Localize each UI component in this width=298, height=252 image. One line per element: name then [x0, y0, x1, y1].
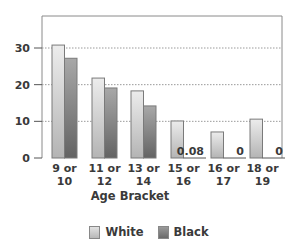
y-tick-label: 10	[15, 115, 31, 128]
x-category-label: 10	[57, 175, 73, 188]
bar-group	[92, 78, 117, 158]
value-label: 0.08	[177, 145, 204, 158]
x-category-label: 13 or	[127, 162, 160, 175]
bar-group	[52, 45, 77, 158]
black-swatch-icon	[158, 226, 169, 239]
bar-white	[92, 78, 105, 158]
x-category-label: 18 or	[246, 162, 279, 175]
x-category-label: 14	[136, 175, 152, 188]
x-category-label: 15 or	[167, 162, 200, 175]
white-swatch-icon	[89, 226, 100, 239]
legend-label-white: White	[105, 225, 143, 239]
bar-white	[52, 45, 65, 158]
x-axis-title: Age Bracket	[91, 189, 170, 203]
bar-black	[65, 58, 78, 158]
bar-group: 0.08	[171, 121, 206, 158]
legend-label-black: Black	[174, 225, 209, 239]
x-category-label: 11 or	[88, 162, 121, 175]
x-category-label: 16	[176, 175, 192, 188]
bar-group: 0	[250, 119, 285, 158]
plot-frame	[42, 16, 282, 158]
y-tick-label: 0	[22, 152, 30, 165]
value-label: 0	[275, 145, 283, 158]
bar-white	[131, 91, 144, 158]
y-tick-label: 20	[15, 79, 31, 92]
bar-white	[211, 132, 224, 158]
gridlines	[42, 48, 282, 121]
bar-group	[131, 91, 156, 158]
y-axis-ticks: 0102030	[15, 42, 42, 165]
x-category-label: 16 or	[207, 162, 240, 175]
bar-black	[144, 106, 157, 158]
x-axis-categories: 9 or1011 or1213 or1415 or1616 or1718 or1…	[52, 162, 279, 188]
x-category-label: 19	[255, 175, 270, 188]
x-category-label: 9 or	[52, 162, 77, 175]
x-category-label: 12	[97, 175, 112, 188]
bar-black	[105, 88, 118, 158]
bar-chart: 0.0800 0102030 9 or1011 or1213 or1415 or…	[0, 0, 298, 252]
y-tick-label: 30	[15, 42, 31, 55]
legend: White Black	[0, 225, 298, 239]
bar-white	[250, 119, 263, 158]
bar-group: 0	[211, 132, 246, 158]
value-label: 0	[236, 145, 244, 158]
legend-item-white: White	[89, 225, 143, 239]
bars: 0.0800	[52, 45, 285, 158]
x-category-label: 17	[216, 175, 231, 188]
legend-item-black: Black	[158, 225, 209, 239]
